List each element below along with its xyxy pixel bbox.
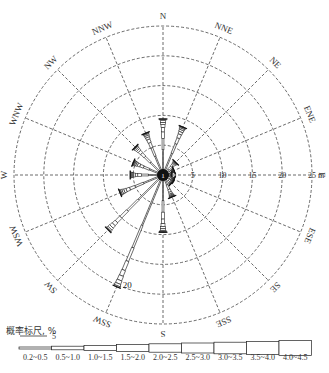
legend-speed-label: 1.5~2.0: [121, 353, 145, 362]
radial-tick-label: 5: [191, 171, 195, 180]
direction-label: ESE: [302, 227, 318, 246]
legend-speed-box: [117, 345, 150, 352]
legend-speed-label: 2.0~2.5: [153, 353, 177, 362]
legend-speed-box: [149, 344, 182, 352]
direction-label: S: [160, 329, 165, 339]
legend-speed-label: 3.5~4.0: [251, 353, 275, 362]
radial-tick-label: 10: [219, 171, 227, 180]
legend-title: 概率标尺, %: [6, 324, 56, 337]
direction-label: NW: [42, 53, 60, 71]
legend-speed-label: 4.0~4.5: [283, 353, 307, 362]
direction-label: SW: [42, 279, 59, 296]
grid-spoke: [163, 118, 301, 175]
wind-bar-sw: [105, 172, 166, 233]
legend-speed-label: 1.0~1.5: [88, 353, 112, 362]
direction-label: N: [160, 11, 167, 21]
grid-spoke: [163, 175, 268, 280]
radial-tick-label: 20: [278, 171, 286, 180]
direction-label: NE: [268, 55, 284, 71]
legend-speed-box: [84, 345, 117, 350]
legend-speed-label: 0.2~0.5: [23, 353, 47, 362]
direction-label: WNW: [7, 101, 25, 127]
grid-spoke: [163, 175, 301, 232]
bar-annotation: 20: [123, 280, 132, 290]
legend-speed-box: [182, 343, 215, 353]
direction-label: WSW: [7, 223, 25, 248]
radial-tick-label: 25: [308, 171, 316, 180]
direction-label: SSW: [91, 313, 112, 330]
legend-speed-label: 3.0~3.5: [218, 353, 242, 362]
wind-rose-chart: NNNENEENEEESESESSESSSWSWWSWWWNWNWNNW5101…: [0, 0, 329, 373]
direction-label: SSE: [214, 314, 233, 329]
grid-spoke: [163, 70, 268, 175]
direction-label: ENE: [302, 104, 318, 124]
direction-label: W: [0, 170, 9, 179]
radial-unit: m: [318, 171, 325, 180]
legend-speed-label: 2.5~3.0: [186, 353, 210, 362]
direction-label: NNW: [90, 19, 114, 37]
radial-tick-label: 15: [248, 171, 256, 180]
direction-label: SE: [268, 280, 283, 295]
legend-speed-box: [52, 346, 85, 350]
calm-label: 1: [161, 172, 165, 180]
direction-label: NNE: [213, 20, 234, 37]
legend-speed-label: 0.5~1.0: [56, 353, 80, 362]
legend-speed-box: [19, 347, 52, 349]
